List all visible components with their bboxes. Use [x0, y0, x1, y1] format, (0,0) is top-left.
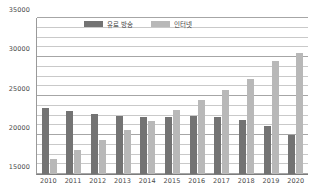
bar	[247, 79, 254, 174]
x-axis-tick-label: 2015	[160, 177, 185, 185]
y-axis-tick-label: 30000	[9, 45, 30, 53]
x-axis-tick-label: 2012	[85, 177, 110, 185]
legend-item-label: 유료 방송	[107, 19, 133, 29]
bar-group	[185, 18, 210, 174]
bar-group	[259, 18, 284, 174]
x-axis-tick-label: 2016	[184, 177, 209, 185]
bar	[214, 117, 221, 174]
bar	[99, 140, 106, 174]
bar	[222, 90, 229, 174]
y-axis: 3500030000250002000015000	[0, 18, 33, 175]
bar	[91, 114, 98, 174]
y-axis-tick-label: 25000	[9, 85, 30, 93]
bar	[288, 135, 295, 174]
x-axis-tick-label: 2014	[135, 177, 160, 185]
bar	[190, 116, 197, 175]
y-axis-tick-label: 15000	[9, 163, 30, 171]
x-axis-tick-label: 2011	[61, 177, 86, 185]
legend-item[interactable]: 인터넷	[151, 19, 192, 29]
bar	[116, 116, 123, 174]
x-axis-tick-label: 2018	[234, 177, 259, 185]
bar	[173, 110, 180, 174]
y-axis-tick-label: 35000	[9, 6, 30, 14]
x-axis-tick-label: 2010	[36, 177, 61, 185]
bar-group	[160, 18, 185, 174]
bar	[66, 111, 73, 174]
bar	[296, 53, 303, 174]
bar	[198, 100, 205, 174]
bar	[239, 120, 246, 174]
legend-item-label: 인터넷	[174, 19, 192, 29]
legend-swatch-icon	[84, 21, 103, 27]
x-axis-tick-label: 2013	[110, 177, 135, 185]
x-axis-tick-label: 2019	[259, 177, 284, 185]
bar-group	[37, 18, 62, 174]
bar	[148, 121, 155, 174]
chart-legend: 유료 방송인터넷	[84, 19, 192, 29]
bar-group	[136, 18, 161, 174]
plot-area	[36, 18, 308, 175]
bar-group	[62, 18, 87, 174]
bar-group	[111, 18, 136, 174]
bar-group	[283, 18, 308, 174]
bar	[50, 159, 57, 174]
x-axis-tick-label: 2020	[283, 177, 308, 185]
bar-chart: 3500030000250002000015000 20102011201220…	[0, 0, 314, 196]
legend-item[interactable]: 유료 방송	[84, 19, 133, 29]
bar-group	[86, 18, 111, 174]
bar-group	[209, 18, 234, 174]
bar-group	[234, 18, 259, 174]
legend-swatch-icon	[151, 21, 170, 27]
bar	[272, 61, 279, 174]
bar	[140, 117, 147, 174]
x-axis-tick-label: 2017	[209, 177, 234, 185]
bar	[42, 108, 49, 174]
bar	[74, 150, 81, 174]
y-axis-tick-label: 20000	[9, 124, 30, 132]
x-axis: 2010201120122013201420152016201720182019…	[36, 177, 308, 185]
bar	[165, 117, 172, 174]
bar	[124, 130, 131, 174]
bar	[264, 126, 271, 174]
bars-layer	[37, 18, 308, 174]
